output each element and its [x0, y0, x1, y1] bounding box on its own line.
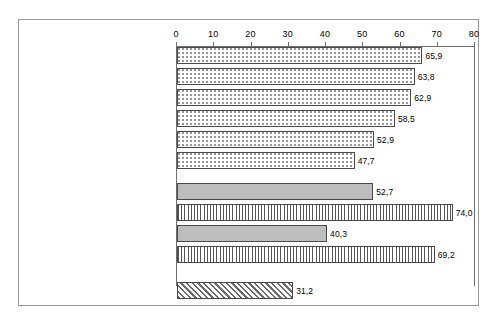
bar-value-label: 74,0 — [456, 208, 473, 218]
bar-value-label: 58,5 — [398, 114, 415, 124]
bar-value-label: 69,2 — [438, 250, 455, 260]
x-axis-tick-label: 50 — [357, 29, 367, 39]
x-axis-tick-label: 30 — [283, 29, 293, 39]
x-axis-tick-label: 80 — [469, 29, 479, 39]
bar-value-label: 52,9 — [377, 135, 394, 145]
plot-right-rule — [474, 46, 475, 286]
x-axis-tick-label: 60 — [394, 29, 404, 39]
bar-shape — [177, 131, 374, 148]
bar-shape — [177, 89, 411, 106]
bar-value-label: 63,8 — [418, 72, 435, 82]
bar-shape — [177, 246, 435, 263]
x-axis-tick-label: 0 — [173, 29, 178, 39]
x-axis-tick-label: 40 — [320, 29, 330, 39]
bar-shape — [177, 110, 395, 127]
bar-value-label: 62,9 — [414, 93, 431, 103]
bar-shape — [177, 282, 293, 299]
bar-value-label: 52,7 — [376, 187, 393, 197]
bar-value-label: 65,9 — [425, 51, 442, 61]
bar-shape — [177, 183, 373, 200]
bar-shape — [177, 47, 422, 64]
x-axis-tick-label: 10 — [208, 29, 218, 39]
x-axis-tick-label: 70 — [432, 29, 442, 39]
chart-frame: 0 10 20 30 40 50 60 70 80 EP Elections 1… — [18, 19, 479, 306]
bar-value-label: 31,2 — [296, 286, 313, 296]
bar-shape — [177, 225, 327, 242]
bar-shape — [177, 152, 355, 169]
bar-shape — [177, 68, 415, 85]
bar-value-label: 47,7 — [358, 156, 375, 166]
bar-value-label: 40,3 — [330, 229, 347, 239]
x-axis-tick-label: 20 — [245, 29, 255, 39]
bar-shape — [177, 204, 453, 221]
